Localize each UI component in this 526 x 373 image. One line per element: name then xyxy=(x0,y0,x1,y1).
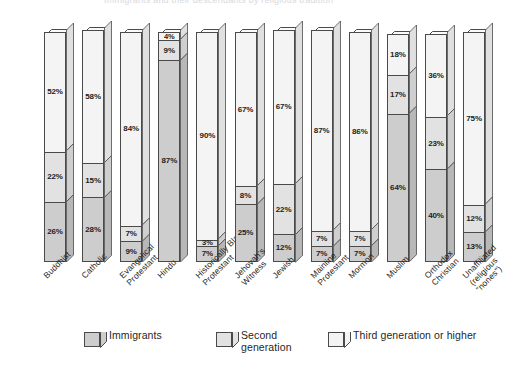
stacked-bar: 36%23%40% xyxy=(425,35,447,262)
segment-value-label: 67% xyxy=(236,106,256,114)
stacked-bar: 75%12%13% xyxy=(463,33,485,262)
bar-group: 67%8%25% xyxy=(235,30,264,262)
bar-segment-third: 84% xyxy=(120,32,142,227)
stacked-bar: 87%7%7% xyxy=(311,31,333,262)
bar-segment-second: 17% xyxy=(387,75,409,114)
bar-top-face xyxy=(82,21,104,28)
chart-legend: ImmigrantsSecondgenerationThird generati… xyxy=(0,326,526,366)
bar-segment-immigrants: 87% xyxy=(158,60,180,262)
bar-top-face xyxy=(273,21,295,28)
bar-segment-second: 7% xyxy=(349,231,371,247)
bar-group: 86%7%7% xyxy=(349,30,378,262)
bar-segment-third: 18% xyxy=(387,34,409,76)
bar-group: 58%15%28% xyxy=(82,30,111,262)
bar-segment-immigrants: 64% xyxy=(387,114,409,262)
bar-segment-third: 90% xyxy=(196,32,218,241)
bar-segment-third: 52% xyxy=(44,32,66,153)
legend-swatch-third-generation-icon xyxy=(328,326,346,348)
bar-segment-second: 7% xyxy=(120,226,142,242)
bar-segment-third: 86% xyxy=(349,32,371,232)
stacked-bar: 84%7%9% xyxy=(120,33,142,262)
bar-side-face xyxy=(104,21,111,262)
bar-segment-second: 22% xyxy=(44,152,66,203)
stacked-bar: 86%7%7% xyxy=(349,33,371,262)
segment-value-label: 18% xyxy=(388,51,408,59)
bar-top-face xyxy=(158,23,180,30)
bar-segment-second: 22% xyxy=(273,184,295,235)
segment-value-label: 15% xyxy=(83,177,103,185)
segment-value-label: 22% xyxy=(274,206,294,214)
bar-top-face xyxy=(425,25,447,32)
bar-group: 36%23%40% xyxy=(425,30,454,262)
segment-value-label: 64% xyxy=(388,184,408,192)
segment-value-label: 90% xyxy=(197,132,217,140)
segment-value-label: 17% xyxy=(388,91,408,99)
bar-group: 87%7%7% xyxy=(311,30,340,262)
bar-segment-third: 67% xyxy=(273,30,295,185)
segment-value-label: 87% xyxy=(312,127,332,135)
segment-value-label: 23% xyxy=(426,140,446,148)
bar-segment-second: 15% xyxy=(82,163,104,198)
bar-group: 75%12%13% xyxy=(463,30,492,262)
plot-area: 52%22%26%Buddhist58%15%28%Catholic84%7%9… xyxy=(0,8,526,270)
segment-value-label: 26% xyxy=(45,228,65,236)
legend-label-third-generation: Third generation or higher xyxy=(353,326,476,342)
stacked-bar: 67%8%25% xyxy=(235,33,257,262)
bar-top-face xyxy=(463,23,485,30)
bar-segment-third: 58% xyxy=(82,30,104,165)
segment-value-label: 9% xyxy=(159,47,179,55)
stacked-bar: 4%9%87% xyxy=(158,33,180,262)
bar-group: 4%9%87% xyxy=(158,30,187,262)
segment-value-label: 67% xyxy=(274,103,294,111)
bar-side-face xyxy=(333,21,340,262)
cropped-title-text: Immigrants and their descendants by reli… xyxy=(104,0,333,5)
bar-side-face xyxy=(447,25,454,262)
legend-item-third-generation[interactable]: Third generation or higher xyxy=(328,326,476,348)
bar-group: 84%7%9% xyxy=(120,30,149,262)
bar-top-face xyxy=(311,21,333,28)
chart-root: Immigrants and their descendants by reli… xyxy=(0,0,526,373)
segment-value-label: 87% xyxy=(159,157,179,165)
bar-side-face xyxy=(295,21,302,262)
legend-swatch-immigrants-icon xyxy=(84,326,102,348)
legend-item-second-generation[interactable]: Secondgeneration xyxy=(216,326,292,353)
bar-segment-third: 67% xyxy=(235,32,257,187)
segment-value-label: 36% xyxy=(426,72,446,80)
segment-value-label: 13% xyxy=(464,243,484,251)
bar-side-face xyxy=(180,23,187,262)
segment-value-label: 8% xyxy=(236,192,256,200)
segment-value-label: 12% xyxy=(274,244,294,252)
segment-value-label: 75% xyxy=(464,115,484,123)
bar-segment-second: 7% xyxy=(311,231,333,247)
bar-side-face xyxy=(409,25,416,262)
segment-value-label: 22% xyxy=(45,173,65,181)
segment-value-label: 7% xyxy=(312,235,332,243)
stacked-bar: 52%22%26% xyxy=(44,33,66,262)
bar-group: 90%3%7% xyxy=(196,30,225,262)
bar-side-face xyxy=(257,23,264,262)
bar-side-face xyxy=(142,23,149,262)
segment-value-label: 40% xyxy=(426,212,446,220)
stacked-bar: 67%22%12% xyxy=(273,31,295,262)
bar-group: 18%17%64% xyxy=(387,30,416,262)
segment-value-label: 12% xyxy=(464,215,484,223)
segment-value-label: 86% xyxy=(350,128,370,136)
segment-value-label: 7% xyxy=(350,235,370,243)
segment-value-label: 52% xyxy=(45,88,65,96)
bar-segment-second: 12% xyxy=(463,205,485,233)
segment-value-label: 25% xyxy=(236,229,256,237)
bar-top-face xyxy=(387,25,409,32)
bar-side-face xyxy=(485,23,492,262)
bar-top-face xyxy=(196,23,218,30)
segment-value-label: 84% xyxy=(121,125,141,133)
bar-group: 67%22%12% xyxy=(273,30,302,262)
bar-side-face xyxy=(371,23,378,262)
bar-segment-second: 8% xyxy=(235,186,257,205)
bar-top-face xyxy=(349,23,371,30)
legend-swatch-second-generation-icon xyxy=(216,326,234,348)
legend-item-immigrants[interactable]: Immigrants xyxy=(84,326,162,348)
segment-value-label: 28% xyxy=(83,226,103,234)
bar-side-face xyxy=(66,23,73,262)
bar-segment-third: 36% xyxy=(425,34,447,118)
stacked-bar: 90%3%7% xyxy=(196,33,218,262)
